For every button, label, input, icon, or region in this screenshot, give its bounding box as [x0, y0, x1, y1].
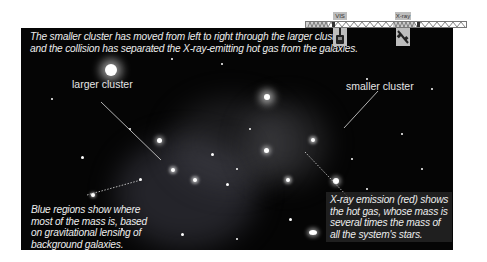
galaxy-cluster-image: The smaller cluster has moved from left … — [21, 28, 453, 250]
larger-cluster-label: larger cluster — [72, 78, 133, 90]
telescope-icon-box — [333, 28, 347, 46]
instrument-label-vis: VIS — [333, 12, 347, 20]
blue-regions-leader — [87, 180, 141, 195]
smaller-cluster-label: smaller cluster — [346, 80, 414, 92]
header-caption: The smaller cluster has moved from left … — [30, 31, 358, 54]
satellite-icon-box — [396, 28, 410, 46]
xray-line-2: the hot gas, whose mass is — [330, 206, 448, 218]
larger-cluster-leader — [101, 102, 161, 160]
truss-graphic — [305, 21, 467, 28]
header-caption-line-2: and the collision has separated the X-ra… — [30, 43, 358, 55]
instrument-label-xray: X-ray — [395, 12, 411, 20]
xray-line-1: X-ray emission (red) shows — [330, 194, 448, 206]
satellite-icon — [396, 28, 410, 46]
smaller-cluster-leader — [344, 91, 378, 128]
blue-regions-line-4: background galaxies. — [31, 239, 147, 251]
blue-regions-line-3: on gravitational lensing of — [31, 227, 147, 239]
xray-line-4: all the system's stars. — [330, 229, 448, 241]
telescope-icon — [333, 28, 347, 46]
blue-regions-line-1: Blue regions show where — [31, 204, 147, 216]
blue-regions-annotation: Blue regions show where most of the mass… — [31, 204, 147, 250]
xray-line-3: several times the mass of — [330, 217, 448, 229]
blue-regions-line-2: most of the mass is, based — [31, 216, 147, 228]
xray-emission-annotation: X-ray emission (red) shows the hot gas, … — [326, 192, 452, 242]
header-caption-line-1: The smaller cluster has moved from left … — [30, 31, 358, 43]
